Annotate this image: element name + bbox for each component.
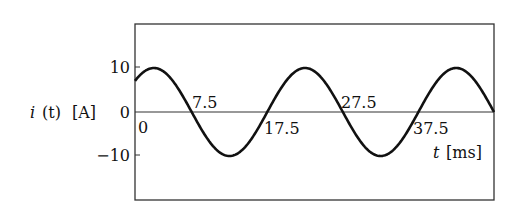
xlabel-t: t [433,143,440,162]
ytick-label-m10: −10 [96,146,130,165]
ylabel-t: (t) [42,103,61,122]
xlabel-7-5: 7.5 [192,93,217,112]
ytick-label-10: 10 [110,58,130,77]
xlabel-37-5: 37.5 [413,119,449,138]
xlabel-27-5: 27.5 [341,93,377,112]
ylabel-unit: [A] [72,103,96,122]
xlabel-unit: [ms] [446,143,482,162]
chart: 10 0 −10 i (t) [A] 0 7.5 17.5 27.5 37.5 … [0,0,522,211]
ylabel-i: i [30,103,35,122]
xlabel-17-5: 17.5 [264,119,300,138]
ytick-label-0: 0 [120,103,130,122]
xlabel-0: 0 [138,118,148,137]
